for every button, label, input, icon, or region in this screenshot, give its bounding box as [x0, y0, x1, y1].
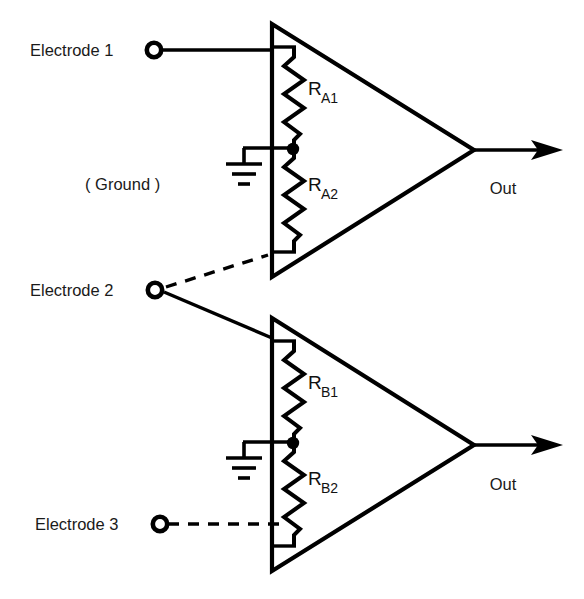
output-label-b: Out	[490, 475, 517, 493]
resistor-rb1-label: R B1	[308, 372, 338, 400]
resistor-ra2-label-sub: A2	[321, 186, 338, 202]
resistor-ra2	[284, 149, 304, 252]
resistor-ra2-label: R A2	[308, 174, 338, 202]
ground-label: ( Ground )	[85, 175, 160, 193]
resistor-rb2-label: R B2	[308, 468, 338, 496]
amplifier-a-triangle	[272, 24, 474, 277]
resistor-rb2-label-main: R	[308, 468, 322, 489]
electrode-1-connection	[147, 43, 274, 57]
electrode-2-to-amp-b-wire	[164, 292, 272, 338]
circuit-svg: Electrode 1 Electrode 2 Electrode 3 ( Gr…	[0, 0, 584, 599]
resistor-rb1-label-main: R	[308, 372, 322, 393]
resistor-ra1-label: R A1	[308, 78, 338, 106]
electrode-2-label: Electrode 2	[30, 281, 113, 299]
electrode-3-connection	[153, 517, 280, 531]
electrode-terminal-icon-3[interactable]	[153, 517, 167, 531]
resistor-ra1	[284, 47, 304, 149]
amplifier-a	[272, 24, 563, 277]
resistor-rb1	[284, 341, 304, 443]
circuit-diagram: Electrode 1 Electrode 2 Electrode 3 ( Gr…	[0, 0, 584, 599]
electrode-1-label: Electrode 1	[30, 41, 113, 59]
resistor-ra2-label-main: R	[308, 174, 322, 195]
electrode-3-label: Electrode 3	[35, 515, 118, 533]
amplifier-b	[272, 318, 563, 571]
electrode-terminal-icon-2[interactable]	[148, 283, 162, 297]
electrode-terminal-icon-1[interactable]	[147, 43, 161, 57]
electrode-2-to-amp-a-wire	[166, 255, 268, 287]
resistor-rb1-label-sub: B1	[321, 384, 338, 400]
resistor-ra1-label-sub: A1	[321, 90, 338, 106]
resistor-rb2-label-sub: B2	[321, 480, 338, 496]
output-label-a: Out	[490, 179, 517, 197]
resistor-rb2	[284, 443, 304, 546]
resistor-ra1-label-main: R	[308, 78, 322, 99]
amplifier-b-triangle	[272, 318, 474, 571]
